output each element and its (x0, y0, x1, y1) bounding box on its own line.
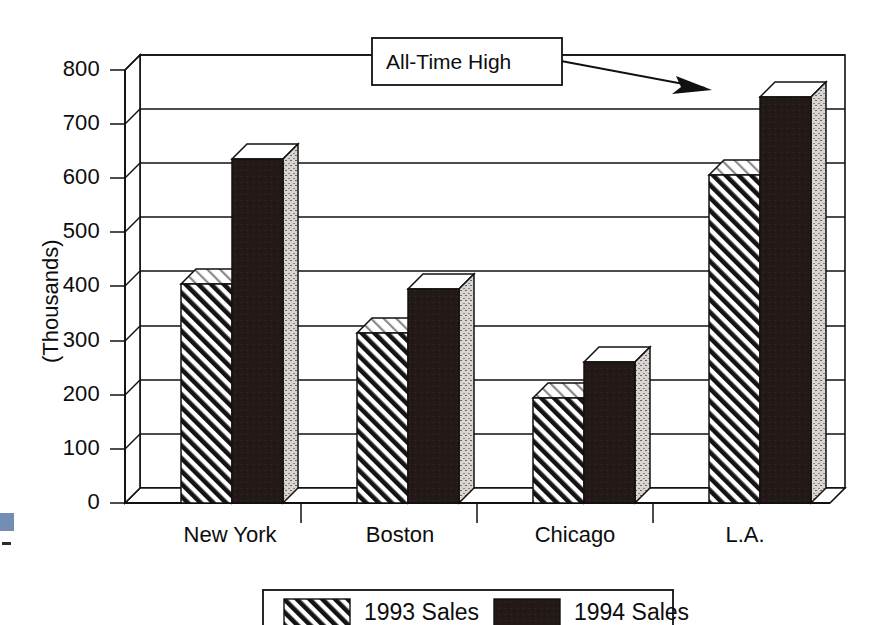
legend-swatch-1994 (494, 599, 560, 625)
legend-swatch-1993 (284, 599, 350, 625)
xtick-label-new-york: New York (140, 524, 320, 546)
bar-new-york-1994 (232, 144, 298, 503)
edge-artifact-marker (0, 513, 14, 531)
legend-label-1994: 1994 Sales (574, 601, 689, 624)
ytick-label-800: 800 (8, 58, 100, 80)
bar-chicago-1994 (584, 347, 650, 503)
bar-la-1994 (760, 82, 826, 503)
xtick-label-boston: Boston (320, 524, 480, 546)
category-axis-ticks (301, 503, 653, 523)
xtick-label-la: L.A. (660, 524, 830, 546)
ytick-label-200: 200 (8, 383, 100, 405)
xtick-label-chicago: Chicago (490, 524, 660, 546)
ytick-label-700: 700 (8, 112, 100, 134)
bar-chart: 800 700 600 500 400 300 200 100 0 (Thous… (0, 0, 881, 625)
annotation-label: All-Time High (386, 51, 511, 72)
legend-label-1993: 1993 Sales (364, 601, 479, 624)
ytick-label-600: 600 (8, 166, 100, 188)
edge-artifact-dash (2, 542, 11, 545)
ytick-label-0: 0 (8, 491, 100, 513)
chart-screenshot: 800 700 600 500 400 300 200 100 0 (Thous… (0, 0, 881, 625)
ytick-label-100: 100 (8, 437, 100, 459)
value-axis-title: (Thousands) (40, 239, 62, 363)
bar-boston-1994 (408, 274, 474, 503)
